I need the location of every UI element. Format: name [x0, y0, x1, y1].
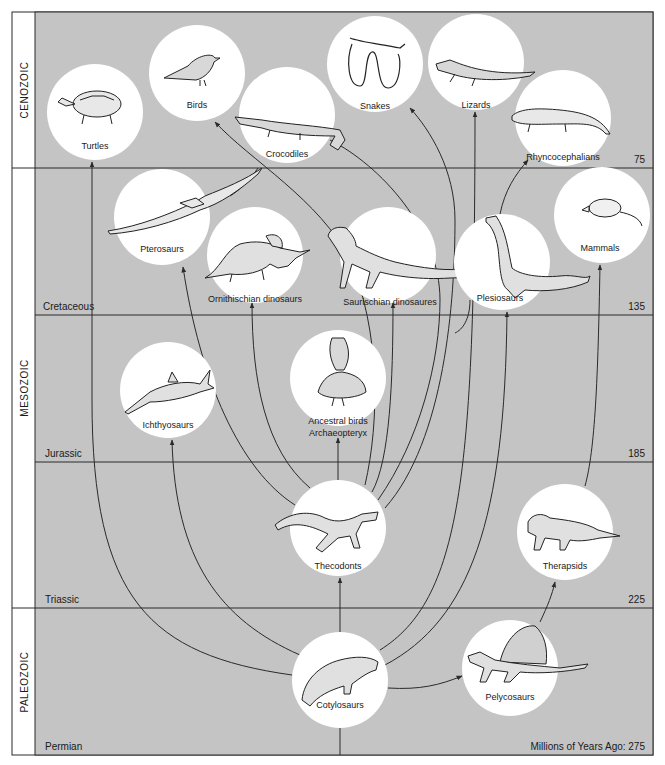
- node-label-turtles: Turtles: [81, 141, 109, 151]
- node-label-rhyncocephalians: Rhyncocephalians: [526, 152, 600, 162]
- node-label-therapsids: Therapsids: [543, 561, 588, 571]
- node-ichthyosaurs[interactable]: Ichthyosaurs: [120, 342, 216, 438]
- time-marker-135: 135: [628, 301, 645, 312]
- node-label-saurischian: Saurischian dinosaures: [343, 297, 437, 307]
- reptile-evolution-diagram: CENOZOIC MESOZOIC PALEOZOIC Cretaceous J…: [0, 0, 665, 765]
- node-label-archaeopteryx-2: Archaeopteryx: [309, 428, 368, 438]
- time-marker-275: Millions of Years Ago: 275: [530, 741, 645, 752]
- node-cotylosaurs[interactable]: Cotylosaurs: [292, 632, 388, 728]
- node-label-crocodiles: Crocodiles: [266, 149, 309, 159]
- node-snakes[interactable]: Snakes: [327, 16, 423, 112]
- node-label-lizards: Lizards: [461, 100, 491, 110]
- era-label-cenozoic: CENOZOIC: [19, 62, 30, 119]
- node-turtles[interactable]: Turtles: [47, 64, 143, 160]
- node-mammals[interactable]: Mammals: [554, 167, 650, 263]
- node-label-cotylosaurs: Cotylosaurs: [316, 700, 364, 710]
- node-label-pelycosaurs: Pelycosaurs: [485, 692, 535, 702]
- node-label-pterosaurs: Pterosaurs: [140, 244, 184, 254]
- node-label-snakes: Snakes: [360, 101, 391, 111]
- period-label-cretaceous: Cretaceous: [43, 301, 94, 312]
- time-marker-225: 225: [628, 594, 645, 605]
- node-label-ichthyosaurs: Ichthyosaurs: [142, 420, 194, 430]
- period-label-triassic: Triassic: [45, 594, 79, 605]
- node-label-mammals: Mammals: [580, 243, 620, 253]
- time-marker-75: 75: [634, 154, 646, 165]
- node-label-ornithischian: Ornithischian dinosaurs: [208, 294, 303, 304]
- node-label-thecodonts: Thecodonts: [314, 561, 362, 571]
- period-label-permian: Permian: [45, 741, 82, 752]
- node-birds[interactable]: Birds: [149, 25, 245, 121]
- node-label-birds: Birds: [187, 100, 208, 110]
- period-label-jurassic: Jurassic: [45, 448, 82, 459]
- era-label-paleozoic: PALEOZOIC: [19, 652, 30, 713]
- era-label-mesozoic: MESOZOIC: [19, 359, 30, 416]
- node-label-archaeopteryx-1: Ancestral birds: [308, 416, 368, 426]
- node-label-plesiosaurs: Plesiosaurs: [477, 293, 524, 303]
- time-marker-185: 185: [628, 448, 645, 459]
